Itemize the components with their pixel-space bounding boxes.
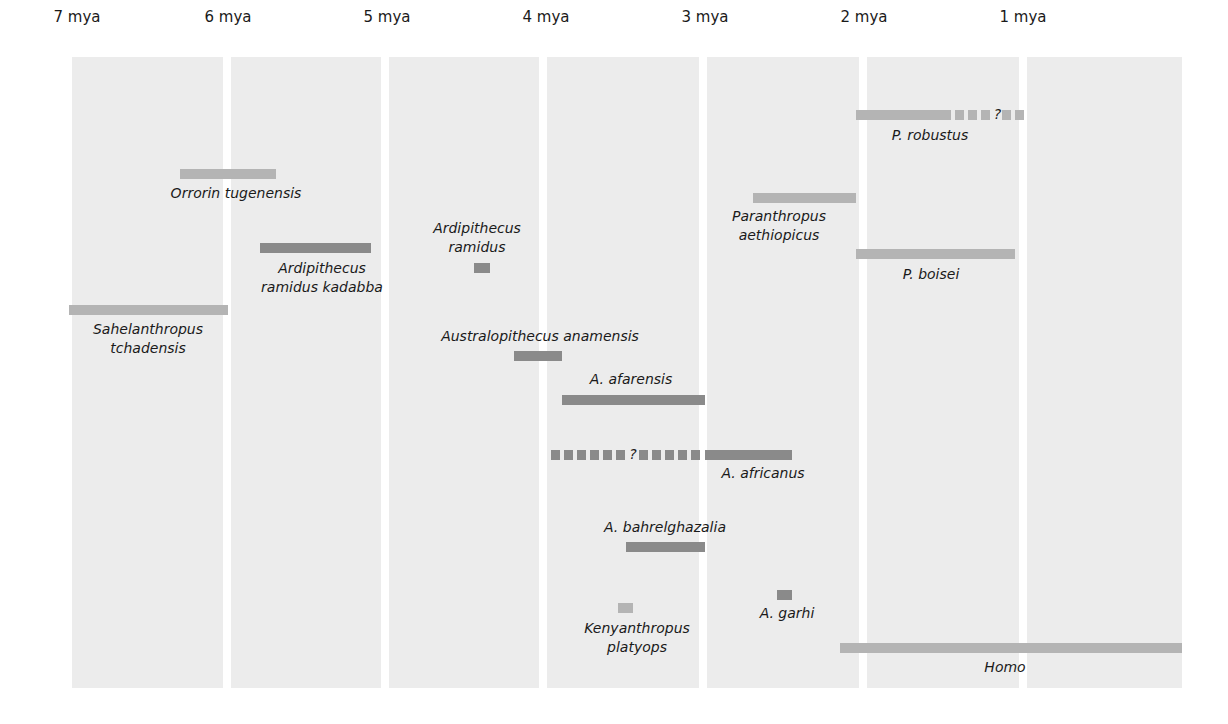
- ardipithecus-ramidus-kadabba-label: Ardipithecusramidus kadabba: [261, 259, 383, 297]
- a-afarensis-range-bar: [562, 395, 705, 405]
- species-label-line: Paranthropus: [732, 207, 826, 226]
- paranthropus-aethiopicus-range-bar: [753, 193, 856, 203]
- sahelanthropus-tchadensis-range-bar: [69, 305, 228, 315]
- orrorin-tugenensis-label: Orrorin tugenensis: [171, 184, 302, 203]
- axis-tick-label: 4 mya: [523, 8, 570, 26]
- a-africanus-uncertain-segment: [577, 450, 586, 460]
- p-robustus-uncertain-segment: [955, 110, 964, 120]
- p-robustus-uncertain-segment: [1015, 110, 1024, 120]
- species-label-line: Ardipithecus: [261, 259, 383, 278]
- species-label-line: Homo: [984, 658, 1025, 677]
- ardipithecus-ramidus-range-bar: [474, 263, 490, 273]
- a-africanus-uncertain-segment: [665, 450, 674, 460]
- species-label-line: P. boisei: [903, 265, 960, 284]
- axis-tick-label: 1 mya: [1000, 8, 1047, 26]
- a-afarensis-label: A. afarensis: [590, 370, 673, 389]
- australopithecus-anamensis-range-bar: [514, 351, 562, 361]
- timeline-panel: [72, 57, 223, 688]
- species-label-line: A. africanus: [721, 464, 804, 483]
- axis-tick-label: 6 mya: [205, 8, 252, 26]
- species-label-line: tchadensis: [93, 339, 203, 358]
- species-label-line: Orrorin tugenensis: [171, 184, 302, 203]
- timeline-panel: [867, 57, 1019, 688]
- species-label-line: Ardipithecus: [433, 219, 521, 238]
- timeline-panel: [231, 57, 381, 688]
- species-label-line: Australopithecus anamensis: [441, 327, 639, 346]
- axis-tick-label: 3 mya: [682, 8, 729, 26]
- a-africanus-uncertain-segment: [639, 450, 648, 460]
- ardipithecus-ramidus-kadabba-range-bar: [260, 243, 371, 253]
- sahelanthropus-tchadensis-label: Sahelanthropustchadensis: [93, 320, 203, 358]
- a-bahrelghazalia-range-bar: [626, 542, 706, 552]
- a-bahrelghazalia-label: A. bahrelghazalia: [604, 518, 726, 537]
- axis-tick-label: 7 mya: [54, 8, 101, 26]
- species-label-line: A. bahrelghazalia: [604, 518, 726, 537]
- kenyanthropus-platyops-label: Kenyanthropusplatyops: [584, 619, 690, 657]
- a-africanus-uncertain-segment: [551, 450, 560, 460]
- species-label-line: A. garhi: [760, 604, 815, 623]
- homo-range-bar: [840, 643, 1182, 653]
- a-africanus-uncertain-segment: [616, 450, 625, 460]
- a-garhi-range-bar: [777, 590, 793, 600]
- species-label-line: aethiopicus: [732, 226, 826, 245]
- timeline-panel: [389, 57, 539, 688]
- ardipithecus-ramidus-label: Ardipithecusramidus: [433, 219, 521, 257]
- p-boisei-label: P. boisei: [903, 265, 960, 284]
- australopithecus-anamensis-label: Australopithecus anamensis: [441, 327, 639, 346]
- p-robustus-label: P. robustus: [892, 126, 968, 145]
- species-label-line: A. afarensis: [590, 370, 673, 389]
- a-africanus-range-bar: [705, 450, 792, 460]
- a-africanus-uncertainty-marker: ?: [629, 446, 636, 462]
- a-africanus-uncertain-segment: [590, 450, 599, 460]
- species-label-line: Sahelanthropus: [93, 320, 203, 339]
- p-robustus-uncertain-segment: [981, 110, 990, 120]
- paranthropus-aethiopicus-label: Paranthropusaethiopicus: [732, 207, 826, 245]
- p-robustus-uncertain-segment: [968, 110, 977, 120]
- orrorin-tugenensis-range-bar: [180, 169, 275, 179]
- species-label-line: ramidus kadabba: [261, 278, 383, 297]
- homo-label: Homo: [984, 658, 1025, 677]
- species-label-line: P. robustus: [892, 126, 968, 145]
- species-label-line: ramidus: [433, 238, 521, 257]
- a-africanus-uncertain-segment: [691, 450, 700, 460]
- a-africanus-uncertain-segment: [603, 450, 612, 460]
- axis-tick-label: 5 mya: [364, 8, 411, 26]
- species-label-line: Kenyanthropus: [584, 619, 690, 638]
- a-africanus-uncertain-segment: [678, 450, 687, 460]
- axis-tick-label: 2 mya: [841, 8, 888, 26]
- kenyanthropus-platyops-range-bar: [618, 603, 634, 613]
- a-garhi-label: A. garhi: [760, 604, 815, 623]
- a-africanus-uncertain-segment: [652, 450, 661, 460]
- timeline-panel: [1027, 57, 1182, 688]
- p-robustus-uncertain-segment: [1002, 110, 1011, 120]
- a-africanus-label: A. africanus: [721, 464, 804, 483]
- p-boisei-range-bar: [856, 249, 1015, 259]
- p-robustus-range-bar: [856, 110, 951, 120]
- p-robustus-uncertainty-marker: ?: [994, 106, 1001, 122]
- a-africanus-uncertain-segment: [564, 450, 573, 460]
- species-label-line: platyops: [584, 638, 690, 657]
